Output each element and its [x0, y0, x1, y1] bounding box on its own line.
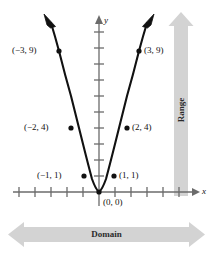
data-point-origin — [96, 189, 101, 194]
range-band-label: Range — [176, 88, 186, 132]
y-axis — [94, 15, 104, 206]
data-point-pos3 — [136, 48, 141, 53]
data-point-neg3 — [56, 48, 61, 53]
point-label-origin: (0, 0) — [103, 197, 123, 207]
data-point-pos1 — [111, 173, 116, 178]
point-label-pos1: (1, 1) — [119, 170, 139, 180]
data-point-pos2 — [124, 125, 129, 130]
domain-band-label: Domain — [0, 229, 213, 239]
point-label-neg3: (−3, 9) — [12, 45, 37, 55]
data-point-neg1 — [81, 173, 86, 178]
point-label-neg1: (−1, 1) — [37, 170, 62, 180]
y-axis-label: y — [104, 15, 108, 25]
point-label-neg2: (−2, 4) — [24, 122, 49, 132]
point-label-pos3: (3, 9) — [144, 45, 164, 55]
parabola-figure: (−3, 9) (3, 9) (−2, 4) (2, 4) (−1, 1) (1… — [0, 0, 213, 254]
point-label-pos2: (2, 4) — [132, 122, 152, 132]
x-axis-label: x — [202, 186, 206, 196]
data-point-neg2 — [68, 125, 73, 130]
x-axis — [13, 187, 200, 197]
